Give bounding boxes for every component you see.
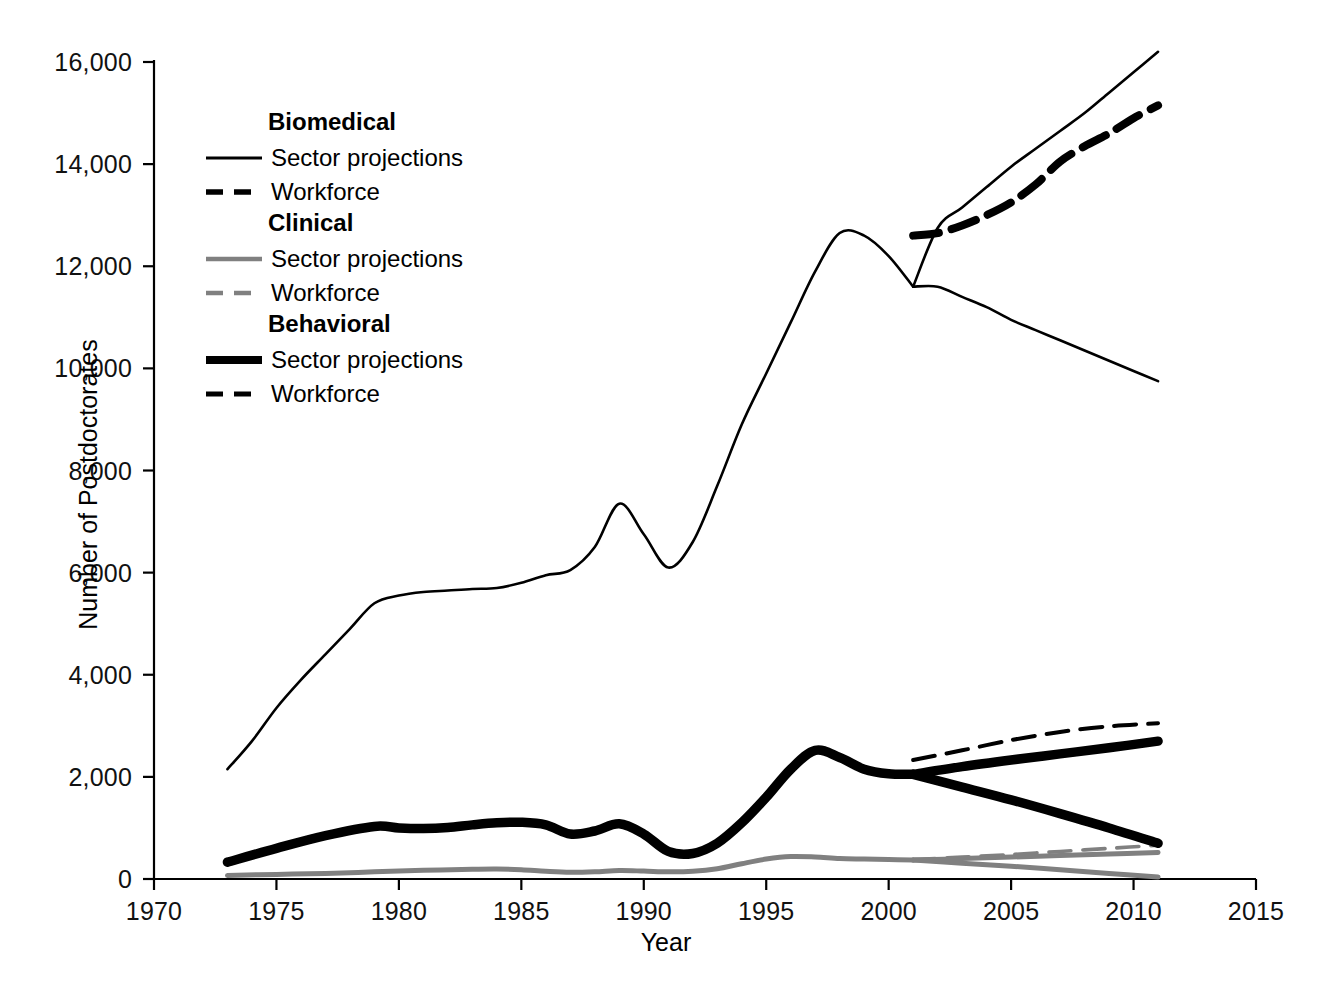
- chart-legend: BiomedicalSector projectionsWorkforceCli…: [205, 108, 535, 411]
- y-tick-label: 8,000: [0, 456, 132, 485]
- legend-line-swatch-icon: [205, 383, 263, 405]
- y-tick-label: 4,000: [0, 660, 132, 689]
- legend-line-swatch-icon: [205, 349, 263, 371]
- x-tick-label: 2010: [1105, 897, 1161, 926]
- y-tick-label: 14,000: [0, 150, 132, 179]
- chart-figure: 02,0004,0006,0008,00010,00012,00014,0001…: [0, 0, 1332, 998]
- legend-item-label: Sector projections: [271, 144, 463, 172]
- legend-item-label: Workforce: [271, 380, 380, 408]
- x-tick-label: 2000: [860, 897, 916, 926]
- legend-group-title-biomedical: Biomedical: [268, 108, 535, 136]
- y-axis-title: Number of Postdoctorates: [74, 335, 103, 635]
- x-tick-label: 1975: [248, 897, 304, 926]
- series-line: [913, 774, 1158, 843]
- y-tick-label: 10,000: [0, 354, 132, 383]
- x-tick-label: 1990: [616, 897, 672, 926]
- legend-line-swatch-icon: [205, 181, 263, 203]
- series-line: [913, 860, 1158, 877]
- x-tick-label: 2005: [983, 897, 1039, 926]
- legend-line-swatch-icon: [205, 282, 263, 304]
- legend-line-swatch-icon: [205, 147, 263, 169]
- x-tick-label: 1995: [738, 897, 794, 926]
- series-line: [913, 52, 1158, 287]
- legend-group-title-clinical: Clinical: [268, 209, 535, 237]
- legend-group-title-behavioral: Behavioral: [268, 310, 535, 338]
- y-tick-label: 2,000: [0, 762, 132, 791]
- x-tick-label: 1985: [493, 897, 549, 926]
- y-tick-label: 16,000: [0, 48, 132, 77]
- legend-item: Sector projections: [205, 242, 535, 276]
- legend-item-label: Workforce: [271, 178, 380, 206]
- series-line: [227, 856, 913, 875]
- series-line: [913, 741, 1158, 774]
- chart-plot-area: [0, 0, 1332, 998]
- legend-line-swatch-icon: [205, 248, 263, 270]
- y-tick-label: 6,000: [0, 558, 132, 587]
- series-line: [913, 286, 1158, 381]
- legend-item: Workforce: [205, 175, 535, 209]
- y-tick-label: 12,000: [0, 252, 132, 281]
- y-tick-label: 0: [0, 865, 132, 894]
- x-tick-label: 1970: [126, 897, 182, 926]
- legend-item: Sector projections: [205, 343, 535, 377]
- legend-item-label: Sector projections: [271, 245, 463, 273]
- x-axis-title: Year: [0, 928, 1332, 957]
- series-line: [227, 750, 913, 862]
- legend-item-label: Sector projections: [271, 346, 463, 374]
- x-tick-label: 2015: [1228, 897, 1284, 926]
- x-tick-label: 1980: [371, 897, 427, 926]
- legend-item: Workforce: [205, 276, 535, 310]
- legend-item: Workforce: [205, 377, 535, 411]
- legend-item-label: Workforce: [271, 279, 380, 307]
- legend-item: Sector projections: [205, 141, 535, 175]
